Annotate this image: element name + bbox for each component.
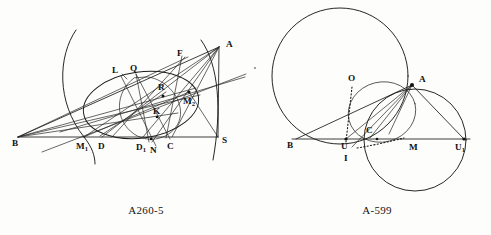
vertex-dot-M2 xyxy=(188,91,191,94)
point-label-N: N xyxy=(150,145,157,155)
point-label-S: S xyxy=(222,135,227,145)
point-label-M1: M1 xyxy=(76,141,88,152)
segment-AS xyxy=(218,47,219,137)
vertex-dot-C xyxy=(376,138,379,141)
scan-speck xyxy=(254,67,256,69)
caption-right: A-599 xyxy=(362,204,392,216)
geometry-figures: B M1 D D1 N C S A F Q L R M2 K A260-5 xyxy=(0,0,491,235)
point-label-A: A xyxy=(226,39,233,49)
figure-sheet: B M1 D D1 N C S A F Q L R M2 K A260-5 xyxy=(0,0,491,235)
ray-B-K xyxy=(18,113,178,137)
vertex-dot-K xyxy=(156,116,159,119)
point-label-B: B xyxy=(12,138,18,148)
point-label-L: L xyxy=(112,65,118,75)
point-label-M: M xyxy=(409,142,418,152)
point-label-O: O xyxy=(348,73,355,83)
point-label-I: I xyxy=(344,153,348,163)
point-label-C: C xyxy=(167,141,174,151)
vertex-dot-A xyxy=(410,83,414,87)
segment-A-I xyxy=(352,85,412,147)
point-label-U1: U1 xyxy=(455,142,465,153)
point-label-Q: Q xyxy=(130,63,137,73)
dotted-line-O-U xyxy=(346,87,352,142)
point-label-D: D xyxy=(98,141,105,151)
figure-left-group: B M1 D D1 N C S A F Q L R M2 K A260-5 xyxy=(12,30,246,216)
vertex-dot-U1 xyxy=(462,137,465,140)
figure-right-group: B U I C M U1 A O A-599 xyxy=(272,8,470,216)
vertex-dot-R xyxy=(162,95,165,98)
point-label-M2: M2 xyxy=(183,96,196,107)
vertex-dot-N xyxy=(150,138,152,140)
point-label-F: F xyxy=(177,48,183,58)
point-label-R: R xyxy=(158,82,165,92)
point-label-A-right: A xyxy=(419,74,426,84)
segment-A-U xyxy=(346,85,412,139)
point-label-B-right: B xyxy=(287,140,293,150)
point-label-C-right: C xyxy=(366,125,373,135)
inner-small-arc xyxy=(119,77,180,139)
point-label-K: K xyxy=(153,106,161,116)
segment-A-U1 xyxy=(412,85,464,139)
point-label-D1: D1 xyxy=(136,142,146,153)
circumcircle-large xyxy=(272,8,408,144)
point-label-U: U xyxy=(341,141,348,151)
cevian-A-D xyxy=(102,47,219,137)
caption-left: A260-5 xyxy=(128,204,164,216)
